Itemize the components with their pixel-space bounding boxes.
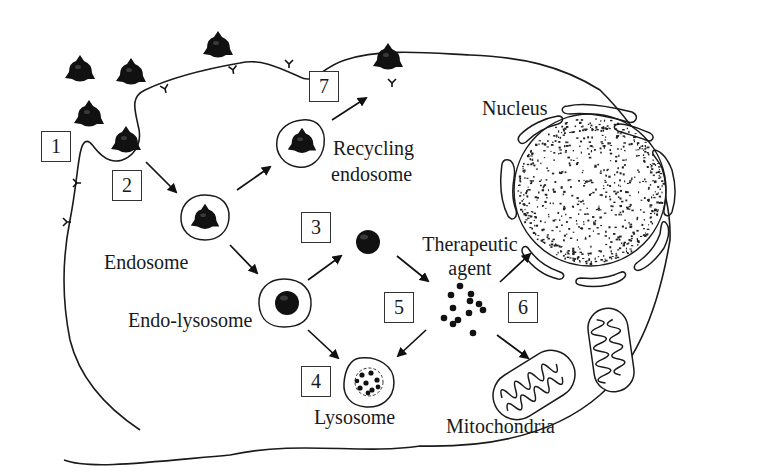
mitochondria-label: Mitochondria	[446, 414, 555, 438]
cell-diagram: 1 2 3 4 5 6 7 Recycling endosome Nucleus…	[0, 0, 775, 475]
lysosome-label: Lysosome	[314, 405, 395, 429]
step-4-box: 4	[301, 366, 331, 397]
step-5-box: 5	[384, 292, 414, 323]
extracellular-nanoparticles	[65, 31, 403, 153]
recycling-endosome-label-line2: endosome	[331, 162, 412, 186]
step-3-box: 3	[301, 212, 331, 243]
endosome-label: Endosome	[104, 250, 188, 274]
step-1-box: 1	[41, 131, 71, 162]
arrow-membrane-to-endosome	[146, 162, 176, 192]
step-7-box: 7	[309, 71, 339, 102]
endo-lysosome-label: Endo-lysosome	[128, 308, 252, 332]
therapeutic-agent-label-line1: Therapeutic	[410, 232, 530, 256]
step-2-box: 2	[112, 170, 142, 201]
arrow-endolysosome-to-lysosome	[308, 330, 338, 358]
endosome	[181, 195, 229, 240]
step-6-box: 6	[508, 292, 538, 323]
lysosome	[344, 358, 394, 407]
arrow-endosome-to-endolysosome	[230, 245, 257, 273]
endo-lysosome	[259, 279, 311, 327]
released-particle	[356, 230, 380, 254]
nucleus-label: Nucleus	[482, 96, 548, 120]
therapeutic-agent-label-line2: agent	[410, 256, 530, 280]
therapeutic-agent-dots	[441, 283, 487, 337]
diagram-drawing	[0, 0, 775, 475]
arrow-agent-to-mitochondria	[497, 335, 528, 358]
arrow-agent-to-lysosome	[398, 330, 426, 356]
recycling-endosome-label-line1: Recycling	[333, 136, 414, 160]
arrow-endosome-to-recycling	[237, 167, 270, 190]
recycling-endosome	[277, 120, 325, 167]
mitochondria	[484, 306, 637, 429]
arrow-endolysosome-to-particle	[308, 256, 341, 280]
